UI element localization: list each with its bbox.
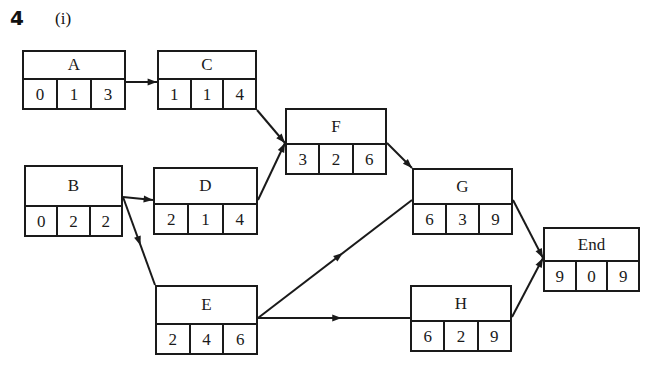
- edge-g-to-end: [513, 200, 543, 258]
- node-label: E: [157, 287, 256, 325]
- node-c: C114: [157, 50, 257, 110]
- node-cell: 6: [224, 325, 256, 353]
- node-label: A: [24, 52, 124, 80]
- node-cell: 1: [159, 80, 192, 108]
- node-cell: 0: [577, 262, 609, 290]
- node-label: C: [159, 52, 255, 80]
- node-cells: 214: [155, 205, 256, 233]
- node-cells: 639: [414, 205, 511, 233]
- node-b: B022: [24, 165, 123, 237]
- edge-b-to-e: [123, 197, 155, 285]
- node-a: A013: [22, 50, 126, 110]
- node-cell: 2: [157, 325, 191, 353]
- node-cell: 0: [26, 207, 58, 235]
- edge-e-to-g: [258, 200, 412, 318]
- node-cell: 9: [608, 262, 638, 290]
- node-d: D214: [153, 167, 258, 235]
- node-cells: 246: [157, 325, 256, 353]
- node-end: End909: [543, 227, 640, 292]
- edge-c-to-f: [257, 110, 285, 143]
- node-cells: 022: [26, 207, 121, 235]
- node-cell: 1: [58, 80, 92, 108]
- node-cell: 2: [445, 322, 478, 350]
- node-cell: 2: [155, 205, 189, 233]
- node-cells: 629: [412, 322, 510, 350]
- node-cell: 4: [224, 80, 255, 108]
- node-cells: 326: [287, 145, 385, 173]
- edge-h-to-end: [512, 258, 543, 317]
- node-cell: 9: [480, 205, 511, 233]
- node-label: H: [412, 287, 510, 322]
- node-cell: 1: [189, 205, 223, 233]
- edge-a-to-c: [126, 78, 157, 85]
- node-label: G: [414, 170, 511, 205]
- edge-f-to-g: [387, 143, 412, 168]
- node-cell: 9: [479, 322, 510, 350]
- edge-d-to-f: [258, 143, 285, 200]
- node-cell: 6: [354, 145, 385, 173]
- node-cells: 013: [24, 80, 124, 108]
- node-label: D: [155, 169, 256, 205]
- node-cell: 3: [287, 145, 320, 173]
- edge-e-to-h: [258, 314, 410, 321]
- node-label: B: [26, 167, 121, 207]
- node-cells: 909: [545, 262, 638, 290]
- node-cell: 2: [320, 145, 353, 173]
- node-g: G639: [412, 168, 513, 235]
- node-cell: 1: [192, 80, 225, 108]
- node-cell: 2: [91, 207, 121, 235]
- node-cell: 4: [224, 205, 256, 233]
- node-h: H629: [410, 285, 512, 352]
- node-label: End: [545, 229, 638, 262]
- node-cell: 6: [414, 205, 447, 233]
- node-cell: 0: [24, 80, 58, 108]
- node-label: F: [287, 110, 385, 145]
- node-cells: 114: [159, 80, 255, 108]
- edge-b-to-d: [123, 196, 153, 203]
- node-f: F326: [285, 108, 387, 175]
- node-cell: 9: [545, 262, 577, 290]
- node-e: E246: [155, 285, 258, 355]
- node-cell: 4: [191, 325, 225, 353]
- network-diagram-page: 4 (i) A013C114F326B022D214G639End909E246…: [0, 0, 646, 366]
- node-cell: 3: [92, 80, 124, 108]
- node-cell: 6: [412, 322, 445, 350]
- node-cell: 3: [447, 205, 480, 233]
- node-cell: 2: [58, 207, 90, 235]
